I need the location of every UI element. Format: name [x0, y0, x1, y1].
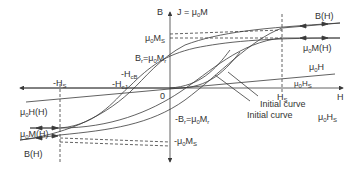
bh-right-label: B(H) [315, 12, 334, 21]
initial-curve-label-1: Initial curve [260, 100, 306, 109]
mu0hs-small-label: μ0HS [294, 80, 312, 89]
coercivity-hcb-label: -HcB [121, 70, 138, 80]
remanence-label: Br=μ0Mr [135, 54, 166, 64]
mu0h-right-label: μ0H [309, 63, 324, 73]
mh-right-label: μ0M(H) [303, 44, 332, 54]
coercivity-hcj-label: -HcJ [112, 80, 128, 90]
mh-left-label: μ0M(H) [20, 130, 49, 140]
neg-saturation-magnetization-label: -μ0MS [174, 137, 197, 147]
j-axis-label: J = μ0M [177, 8, 208, 18]
mu0hs-right-label: μ0HS [318, 113, 337, 123]
origin-label: 0 [160, 92, 165, 101]
mu0h-left-label: μ0H(H) [20, 108, 48, 118]
hysteresis-diagram: B J = μ0M H 0 μ0MS Br=μ0Mr -HcB -HcJ -HS… [0, 0, 358, 175]
b-axis-label: B [157, 8, 163, 17]
initial-curve-a [170, 50, 230, 88]
bh-left-label: B(H) [24, 150, 43, 159]
h-axis-label: H [337, 93, 344, 102]
neg-remanence-label: -Br=μ0Mr [175, 115, 209, 125]
saturation-magnetization-label: μ0MS [145, 34, 165, 44]
initial-curve-label-2: Initial curve [247, 111, 293, 120]
neg-saturation-field-label: -HS [53, 79, 67, 89]
